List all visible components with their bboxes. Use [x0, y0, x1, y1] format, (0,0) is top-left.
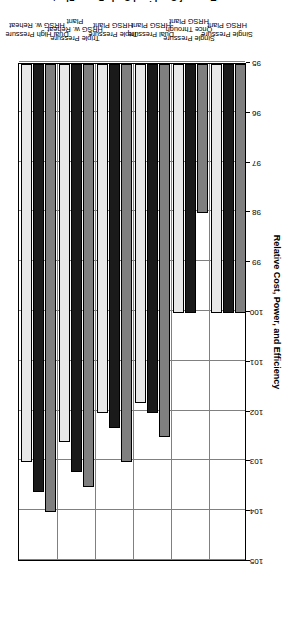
bar-row: [147, 64, 158, 560]
bar-group: [19, 64, 57, 560]
bar-neteff[interactable]: [97, 64, 108, 413]
bar-netoutput[interactable]: [223, 64, 234, 313]
plot-area: [18, 63, 246, 561]
value-tick-label: 100: [250, 308, 263, 317]
bar-row: [159, 64, 170, 560]
bar-price[interactable]: [121, 64, 132, 462]
bar-netoutput[interactable]: [33, 64, 44, 492]
value-axis-title: Relative Cost, Power, and Efficiency: [272, 63, 282, 561]
value-tick-label: 105: [250, 557, 263, 566]
value-tick-label: 96: [252, 108, 261, 117]
bar-neteff[interactable]: [59, 64, 70, 442]
bar-row: [235, 64, 246, 560]
bar-chart-figure: 9596979899100101102103104105 Relative Co…: [0, 0, 308, 623]
bar-netoutput[interactable]: [147, 64, 158, 413]
value-tick-label: 95: [252, 59, 261, 68]
bar-row: [185, 64, 196, 560]
bar-neteff[interactable]: [173, 64, 184, 313]
bar-price[interactable]: [235, 64, 246, 313]
bar-row: [59, 64, 70, 560]
bar-row: [135, 64, 146, 560]
bar-group: [57, 64, 95, 560]
value-tick-label: 97: [252, 158, 261, 167]
gridline: [19, 61, 245, 62]
bar-netoutput[interactable]: [109, 64, 120, 428]
bar-neteff[interactable]: [21, 64, 32, 462]
bar-row: [83, 64, 94, 560]
value-tick-label: 98: [252, 208, 261, 217]
value-tick-label: 104: [250, 507, 263, 516]
value-tick-label: 102: [250, 407, 263, 416]
bar-netoutput[interactable]: [185, 64, 196, 313]
bar-group: [133, 64, 171, 560]
value-tick-mark: [246, 560, 250, 561]
chart-rotation-wrapper: 9596979899100101102103104105 Relative Co…: [0, 0, 308, 623]
bar-row: [97, 64, 108, 560]
value-tick-label: 99: [252, 258, 261, 267]
bar-row: [121, 64, 132, 560]
bar-row: [223, 64, 234, 560]
value-tick-label: 101: [250, 357, 263, 366]
bar-price[interactable]: [45, 64, 56, 512]
bar-row: [33, 64, 44, 560]
bars-layer: [19, 64, 245, 560]
bar-row: [211, 64, 222, 560]
bar-netoutput[interactable]: [71, 64, 82, 472]
bar-price[interactable]: [197, 64, 208, 213]
bar-price[interactable]: [83, 64, 94, 487]
bar-neteff[interactable]: [211, 64, 222, 313]
bar-row: [45, 64, 56, 560]
category-axis-title: Types of Combined Cycle Power Plants: [18, 0, 246, 3]
bar-neteff[interactable]: [135, 64, 146, 403]
bar-price[interactable]: [159, 64, 170, 438]
bar-group: [171, 64, 209, 560]
bar-group: [209, 64, 247, 560]
bar-row: [71, 64, 82, 560]
bar-group: [95, 64, 133, 560]
bar-row: [109, 64, 120, 560]
bar-row: [197, 64, 208, 560]
bar-row: [21, 64, 32, 560]
value-tick-mark: [246, 62, 250, 63]
bar-row: [173, 64, 184, 560]
value-tick-label: 103: [250, 457, 263, 466]
